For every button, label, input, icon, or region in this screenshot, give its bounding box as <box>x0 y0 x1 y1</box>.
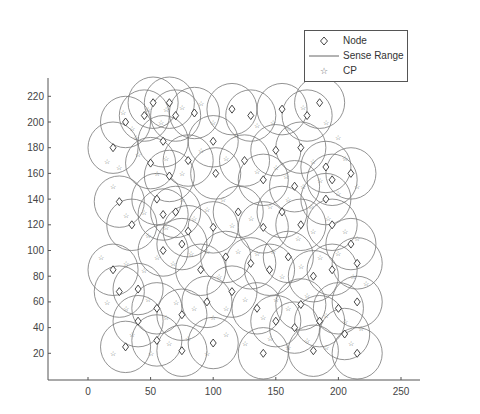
node-diamond-icon <box>273 146 279 154</box>
cp-star-icon: ☆ <box>191 215 197 222</box>
cp-star-icon: ☆ <box>310 228 316 235</box>
node-diamond-icon <box>267 266 273 274</box>
cp-star-icon: ☆ <box>267 203 273 210</box>
node-diamond-icon <box>160 137 166 145</box>
cp-star-icon: ☆ <box>145 106 151 113</box>
y-axis-ticks: 20406080100120140160180200220 <box>27 91 51 359</box>
cp-star-icon: ☆ <box>173 299 179 306</box>
node-diamond-icon <box>260 223 266 231</box>
node-diamond-icon <box>248 112 254 120</box>
cp-star-icon: ☆ <box>323 119 329 126</box>
cp-star-icon: ☆ <box>179 196 185 203</box>
node-diamond-icon <box>135 285 141 293</box>
node-diamond-icon <box>229 288 235 296</box>
cp-star-icon: ☆ <box>335 134 341 141</box>
cp-star-icon: ☆ <box>179 104 185 111</box>
cp-star-icon: ☆ <box>308 203 314 210</box>
node-diamond-icon <box>154 195 160 203</box>
node-diamond-icon <box>323 195 329 203</box>
cp-star-icon: ☆ <box>295 235 301 242</box>
cp-star-icon: ☆ <box>198 100 204 107</box>
cp-star-icon: ☆ <box>198 147 204 154</box>
node-diamond-icon <box>179 240 185 248</box>
cp-star-icon: ☆ <box>285 344 291 351</box>
cp-star-icon: ☆ <box>317 254 323 261</box>
cp-star-icon: ☆ <box>242 340 248 347</box>
node-diamond-icon <box>254 304 260 312</box>
legend-label: CP <box>343 64 357 78</box>
node-diamond-icon <box>298 221 304 229</box>
x-tick-label: 50 <box>145 386 157 397</box>
node-diamond-icon <box>248 259 254 267</box>
node-diamond-icon <box>213 169 219 177</box>
node-diamond-icon <box>260 349 266 357</box>
node-diamond-icon <box>179 347 185 355</box>
cp-star-icon: ☆ <box>129 331 135 338</box>
diamond-icon <box>309 34 339 48</box>
node-diamond-icon <box>292 324 298 332</box>
cp-star-icon: ☆ <box>260 314 266 321</box>
x-tick-label: 200 <box>330 386 347 397</box>
cp-star-icon: ☆ <box>133 134 139 141</box>
cp-star-icon: ☆ <box>323 344 329 351</box>
cp-star-icon: ☆ <box>110 183 116 190</box>
node-diamond-icon <box>160 247 166 255</box>
cp-star-icon: ☆ <box>163 314 169 321</box>
node-diamond-icon <box>148 159 154 167</box>
cp-star-icon: ☆ <box>158 119 164 126</box>
cp-star-icon: ☆ <box>233 132 239 139</box>
cp-star-icon: ☆ <box>145 296 151 303</box>
y-tick-label: 120 <box>27 219 44 230</box>
cp-star-icon: ☆ <box>283 173 289 180</box>
cp-star-icon: ☆ <box>335 250 341 257</box>
x-tick-label: 150 <box>267 386 284 397</box>
y-tick-label: 200 <box>27 117 44 128</box>
cp-star-icon: ☆ <box>304 292 310 299</box>
cp-star-icon: ☆ <box>123 305 129 312</box>
cp-star-icon: ☆ <box>210 314 216 321</box>
svg-text:☆: ☆ <box>320 66 328 76</box>
y-tick-label: 220 <box>27 91 44 102</box>
cp-star-icon: ☆ <box>223 331 229 338</box>
node-diamond-icon <box>354 349 360 357</box>
node-diamond-icon <box>191 109 197 117</box>
cp-star-icon: ☆ <box>298 263 304 270</box>
y-tick-label: 40 <box>33 322 45 333</box>
cp-star-icon: ☆ <box>188 250 194 257</box>
cp-star-icon: ☆ <box>350 273 356 280</box>
node-diamond-icon <box>185 227 191 235</box>
cp-star-icon: ☆ <box>123 212 129 219</box>
x-tick-label: 100 <box>205 386 222 397</box>
node-diamond-icon <box>304 112 310 120</box>
node-diamond-icon <box>329 266 335 274</box>
node-diamond-icon <box>310 347 316 355</box>
cp-star-icon: ☆ <box>300 104 306 111</box>
cp-star-icon: ☆ <box>135 151 141 158</box>
cp-star-icon: ☆ <box>254 122 260 129</box>
cp-star-icon: ☆ <box>104 299 110 306</box>
cp-star-icon: ☆ <box>98 254 104 261</box>
node-diamond-icon <box>335 304 341 312</box>
node-diamond-icon <box>129 221 135 229</box>
node-diamond-icon <box>317 99 323 107</box>
cp-star-icon: ☆ <box>273 296 279 303</box>
cp-star-icon: ☆ <box>285 125 291 132</box>
y-tick-label: 20 <box>33 348 45 359</box>
cp-star-icon: ☆ <box>204 248 210 255</box>
cp-star-icon: ☆ <box>191 305 197 312</box>
cp-star-icon: ☆ <box>354 235 360 242</box>
y-tick-label: 140 <box>27 194 44 205</box>
cp-star-icon: ☆ <box>220 196 226 203</box>
cp-star-icon: ☆ <box>285 196 291 203</box>
x-tick-label: 0 <box>85 386 91 397</box>
cp-star-icon: ☆ <box>325 215 331 222</box>
node-diamond-icon <box>210 223 216 231</box>
cp-star-icon: ☆ <box>179 170 185 177</box>
y-tick-label: 160 <box>27 168 44 179</box>
cp-star-icon: ☆ <box>310 158 316 165</box>
node-diamond-icon <box>329 176 335 184</box>
cp-star-icon: ☆ <box>335 190 341 197</box>
cp-star-icon: ☆ <box>141 209 147 216</box>
cp-star-icon: ☆ <box>279 273 285 280</box>
cp-star-icon: ☆ <box>204 350 210 357</box>
